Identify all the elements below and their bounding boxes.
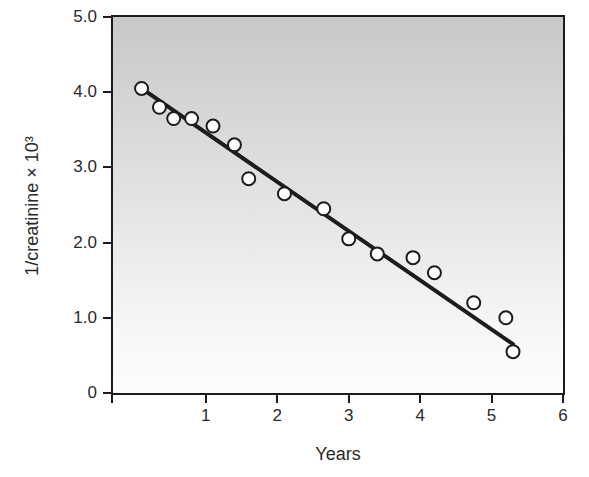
plot-canvas [113,17,563,393]
trend-line [142,88,513,344]
origin-tick [111,393,113,403]
x-tick-mark [348,393,350,403]
data-point-marker [407,251,420,264]
y-tick-mark [103,91,113,93]
y-axis-title: 1/creatinine × 10³ [21,111,43,301]
y-tick-label: 1.0 [30,307,97,329]
data-point-marker [467,296,480,309]
data-point-marker [428,266,441,279]
y-tick-label: 2.0 [30,232,97,254]
data-point-marker [185,112,198,125]
y-tick-mark [103,166,113,168]
data-point-marker [278,187,291,200]
x-tick-label: 2 [262,406,292,426]
data-point-marker [242,172,255,185]
data-point-marker [153,101,166,114]
y-tick-mark [103,317,113,319]
x-tick-mark [276,393,278,403]
plot-area [111,15,565,395]
x-tick-label: 5 [477,406,507,426]
data-point-marker [371,247,384,260]
data-point-marker [135,82,148,95]
data-point-marker [317,202,330,215]
x-tick-mark [205,393,207,403]
data-point-marker [228,138,241,151]
x-tick-mark [419,393,421,403]
x-tick-label: 3 [334,406,364,426]
y-tick-label: 4.0 [30,81,97,103]
x-tick-label: 6 [548,406,578,426]
x-tick-mark [491,393,493,403]
y-tick-label: 5.0 [30,6,97,28]
y-tick-mark [103,16,113,18]
y-tick-mark [103,392,113,394]
x-tick-label: 1 [191,406,221,426]
data-point-marker [499,311,512,324]
data-point-marker [167,112,180,125]
scatter-figure: 1/creatinine × 10³ Years 5.04.03.02.01.0… [0,0,589,477]
data-point-marker [342,232,355,245]
y-tick-label: 3.0 [30,156,97,178]
y-tick-label: 0 [30,382,97,404]
data-point-marker [507,345,520,358]
x-tick-label: 4 [405,406,435,426]
y-tick-mark [103,242,113,244]
x-axis-title: Years [113,443,563,465]
data-point-marker [207,120,220,133]
x-tick-mark [562,393,564,403]
